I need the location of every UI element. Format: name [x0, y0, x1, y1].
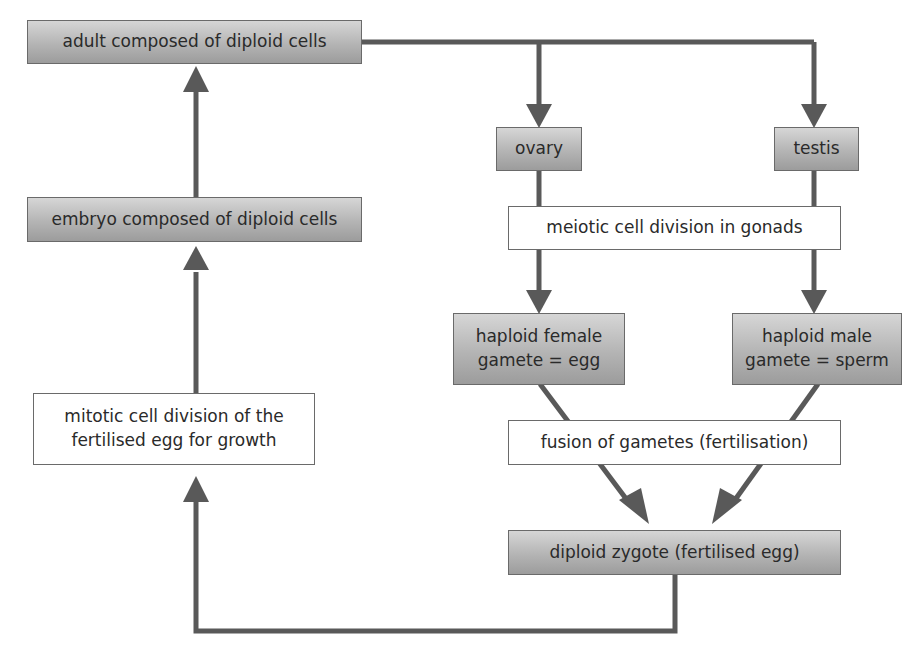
arrowhead-embryo [183, 246, 209, 270]
node-sperm: haploid male gamete = sperm [732, 313, 902, 385]
arrowhead-adult [183, 66, 209, 92]
node-ovary: ovary [496, 127, 582, 171]
node-embryo: embryo composed of diploid cells [27, 197, 362, 242]
node-fusion: fusion of gametes (fertilisation) [508, 420, 841, 465]
node-zygote: diploid zygote (fertilised egg) [508, 530, 841, 575]
node-testis-label: testis [793, 137, 839, 161]
node-zygote-label: diploid zygote (fertilised egg) [549, 541, 799, 565]
node-fusion-label: fusion of gametes (fertilisation) [541, 431, 809, 455]
node-egg-label: haploid female gamete = egg [476, 325, 603, 373]
arrowhead-egg [526, 290, 552, 314]
node-meiosis: meiotic cell division in gonads [508, 206, 841, 250]
arrowhead-ovary [526, 104, 552, 128]
arrowhead-sperm [801, 290, 827, 314]
node-ovary-label: ovary [515, 137, 563, 161]
node-mitosis-label: mitotic cell division of the fertilised … [64, 405, 283, 453]
node-meiosis-label: meiotic cell division in gonads [546, 216, 802, 240]
node-sperm-label: haploid male gamete = sperm [745, 325, 889, 373]
node-adult: adult composed of diploid cells [27, 20, 362, 64]
node-mitosis: mitotic cell division of the fertilised … [33, 393, 315, 465]
arrowhead-mitosis [183, 476, 209, 502]
node-egg: haploid female gamete = egg [453, 313, 625, 385]
arrowhead-testis [801, 104, 827, 128]
node-embryo-label: embryo composed of diploid cells [52, 208, 338, 232]
node-testis: testis [774, 127, 859, 171]
node-adult-label: adult composed of diploid cells [62, 30, 326, 54]
